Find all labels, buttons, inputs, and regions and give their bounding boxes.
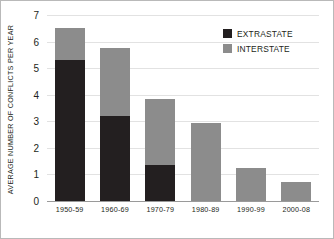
y-tick-label: 2 <box>33 142 39 153</box>
y-axis-tick-labels: 01234567 <box>25 15 43 201</box>
bar-segment-interstate[interactable] <box>100 48 130 116</box>
legend-item[interactable]: INTERSTATE <box>223 42 293 55</box>
bar-group[interactable] <box>236 168 266 201</box>
bar-group[interactable] <box>145 99 175 201</box>
legend-swatch-icon <box>223 44 232 53</box>
bar-segment-interstate[interactable] <box>236 168 266 201</box>
bar-group[interactable] <box>55 28 85 201</box>
bar-group[interactable] <box>100 48 130 201</box>
bar-segment-interstate[interactable] <box>55 28 85 60</box>
bar-segment-interstate[interactable] <box>281 182 311 201</box>
y-axis-title: AVERAGE NUMBER OF CONFLICTS PER YEAR <box>1 1 21 217</box>
bar-group[interactable] <box>191 123 221 201</box>
y-axis-title-label: AVERAGE NUMBER OF CONFLICTS PER YEAR <box>7 24 16 193</box>
legend-item-label: INTERSTATE <box>237 44 290 54</box>
bar-segment-extrastate[interactable] <box>145 165 175 201</box>
legend-swatch-icon <box>223 29 232 38</box>
y-tick-label: 3 <box>33 116 39 127</box>
legend-item[interactable]: EXTRASTATE <box>223 27 293 40</box>
y-tick-label: 5 <box>33 63 39 74</box>
bar-segment-extrastate[interactable] <box>100 116 130 201</box>
chart-figure: AVERAGE NUMBER OF CONFLICTS PER YEAR 012… <box>0 0 334 239</box>
chart-legend: EXTRASTATEINTERSTATE <box>223 27 293 57</box>
bar-segment-interstate[interactable] <box>145 99 175 165</box>
y-tick-label: 7 <box>33 10 39 21</box>
bar-segment-extrastate[interactable] <box>55 60 85 201</box>
x-axis-tick-labels: 1950-591960-691970-791980-891990-992000-… <box>47 205 319 221</box>
gridline-0 <box>47 201 319 202</box>
x-tick-label: 2000-08 <box>266 205 326 214</box>
y-tick-label: 4 <box>33 89 39 100</box>
bar-segment-interstate[interactable] <box>191 123 221 201</box>
y-tick-label: 6 <box>33 36 39 47</box>
y-tick-label: 1 <box>33 169 39 180</box>
legend-item-label: EXTRASTATE <box>237 29 293 39</box>
bar-group[interactable] <box>281 182 311 201</box>
y-tick-label: 0 <box>33 196 39 207</box>
